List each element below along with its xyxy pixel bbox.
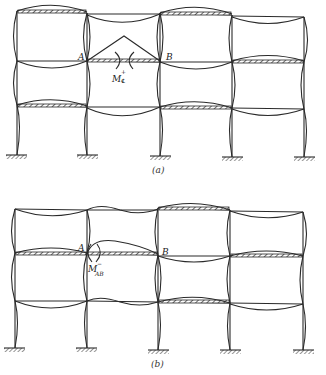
node-label-a: A — [77, 52, 85, 62]
moment-label-sup: − — [97, 260, 102, 267]
node-label-a: A — [77, 243, 85, 253]
frame-diagram: A B M + ℄ (a) — [0, 0, 326, 375]
fixed-supports — [4, 348, 314, 354]
loaded-spans — [16, 207, 302, 303]
columns — [15, 208, 303, 350]
caption-a: (a) — [152, 165, 165, 175]
panel-b: A B M − AB (b) — [4, 203, 314, 369]
moment-label-sub: ℄ — [121, 77, 125, 84]
moment-label-sup: + — [121, 68, 126, 75]
columns — [17, 11, 304, 157]
deflected-shape — [12, 203, 307, 350]
node-label-b: B — [165, 52, 173, 62]
moment-label-sub: AB — [94, 270, 104, 277]
caption-b: (b) — [151, 359, 164, 369]
node-label-b: B — [161, 247, 169, 257]
fixed-supports — [6, 155, 315, 161]
panel-a: A B M + ℄ (a) — [6, 5, 315, 175]
